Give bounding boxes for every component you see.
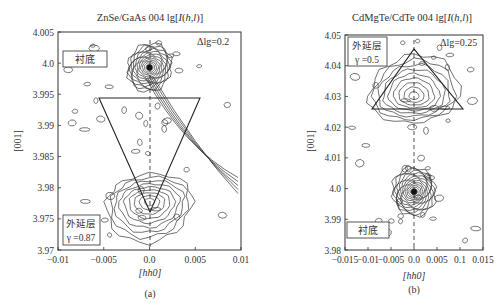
svg-text:−0.01: −0.01 [47,255,69,265]
svg-text:4.05: 4.05 [324,31,341,41]
panel-a-substrate-label: 衬底 [63,51,107,67]
svg-text:4.005: 4.005 [33,28,55,38]
svg-text:3.985: 3.985 [33,152,55,162]
panel-a-contour-step: Δlg=0.2 [197,36,229,47]
svg-text:−0.015: −0.015 [332,255,359,265]
svg-text:4.04: 4.04 [324,61,341,71]
svg-text:3.99: 3.99 [37,121,54,131]
svg-text:γ =0.87: γ =0.87 [66,233,96,243]
panel-a-title: ZnSe/GaAs 004 lg[I(h,l)] [97,12,203,24]
svg-text:4.0: 4.0 [42,59,54,69]
svg-text:3.995: 3.995 [33,90,55,100]
svg-text:γ =0.5: γ =0.5 [354,55,379,65]
panel-a: ZnSe/GaAs 004 lg[I(h,l)] 4.0054.03.9953.… [12,12,250,300]
figure: ZnSe/GaAs 004 lg[I(h,l)] 4.0054.03.9953.… [0,0,504,305]
svg-text:3.975: 3.975 [33,214,55,224]
svg-text:−0.005: −0.005 [378,255,405,265]
svg-text:3.98: 3.98 [37,183,54,193]
panel-b-caption: (b) [408,284,420,296]
panel-a-y-label: [001] [12,130,23,152]
svg-text:衬底: 衬底 [358,224,378,236]
panel-a-caption: (a) [144,288,155,300]
svg-text:−0.005: −0.005 [90,255,117,265]
panel-b-substrate-label: 衬底 [347,222,389,238]
panel-b-title: CdMgTe/CdTe 004 lg[I(h,l)] [352,12,472,24]
panel-b: CdMgTe/CdTe 004 lg[I(h,l)] 4.054.044.034… [305,12,494,296]
svg-text:0.0: 0.0 [144,255,156,265]
svg-text:0.0: 0.0 [408,255,420,265]
svg-text:−0.01: −0.01 [357,255,379,265]
svg-text:0.1: 0.1 [454,255,466,265]
svg-text:4.03: 4.03 [324,92,341,102]
svg-text:3.97: 3.97 [37,246,54,256]
svg-text:0.01: 0.01 [233,255,250,265]
svg-text:3.98: 3.98 [324,246,341,256]
panel-b-y-label: [001] [305,130,316,152]
svg-text:0.005: 0.005 [185,255,207,265]
panel-a-y-ticks: 4.0054.03.9953.993.9853.983.9753.97 [33,28,61,256]
svg-text:外延层: 外延层 [352,40,382,51]
svg-text:衬底: 衬底 [75,53,95,65]
svg-text:4.0: 4.0 [329,184,341,194]
panel-b-contours [349,39,481,243]
panel-a-epilayer-label: 外延层 γ =0.87 [63,215,100,245]
panel-b-x-label: [hh0] [403,270,426,281]
svg-text:4.01: 4.01 [324,153,341,163]
svg-text:4.02: 4.02 [324,123,341,133]
svg-text:0.005: 0.005 [426,255,448,265]
panel-a-x-label: [hh0] [139,267,162,278]
svg-text:0.015: 0.015 [472,255,494,265]
svg-text:3.99: 3.99 [324,215,341,225]
panel-b-contour-step: Δlg=0.25 [440,37,477,48]
panel-b-epilayer-label: 外延层 γ =0.5 [348,37,387,66]
svg-text:外延层: 外延层 [66,218,96,229]
panel-b-y-ticks: 4.054.044.034.024.014.03.993.98 [324,31,348,256]
